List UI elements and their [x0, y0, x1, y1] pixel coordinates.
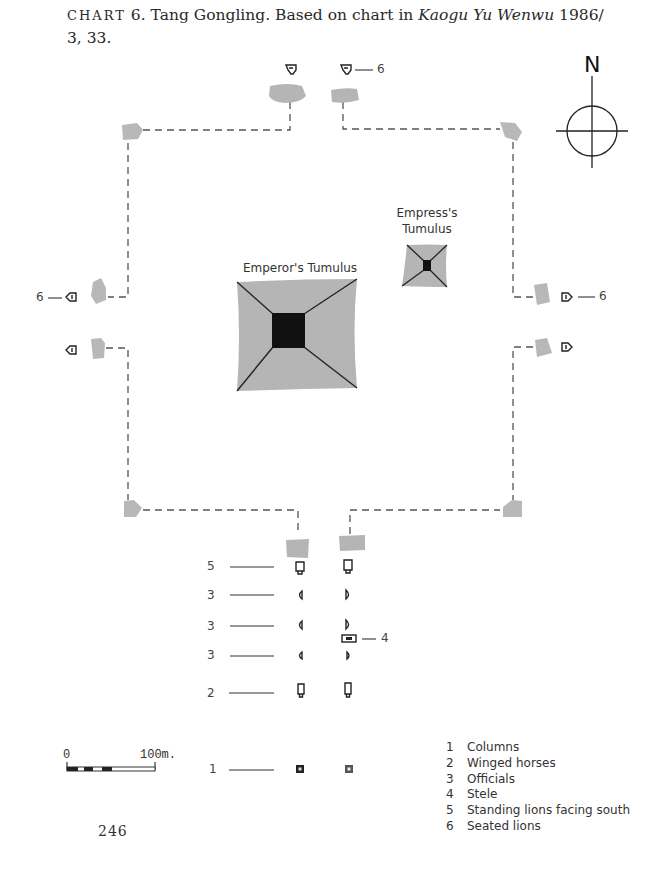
emperor-tumulus: [237, 279, 357, 391]
scale-start-label: 0: [63, 748, 70, 762]
callout-east-lion: 6: [599, 289, 607, 303]
emperor-burial-chamber: [272, 313, 305, 348]
official-icon-e1: [346, 590, 349, 599]
winged-horse-icon-e: [345, 683, 351, 697]
legend-item: 5Standing lions facing south: [446, 803, 630, 819]
legend-item: 1Columns: [446, 740, 630, 756]
compass-rose: [556, 76, 628, 168]
standing-lion-icon-w: [296, 562, 304, 574]
empress-tumulus-label-line1: Empress's: [392, 206, 462, 220]
seated-lion-icon-west-n: [66, 293, 76, 301]
avenue-row-key: 1: [209, 762, 217, 776]
columns-pair: [296, 765, 353, 773]
winged-horse-icon-w: [298, 684, 304, 697]
seated-lion-icon-east-n: [562, 293, 572, 301]
avenue-row-leaders: [229, 567, 274, 770]
official-icon-w1: [300, 591, 303, 599]
compass-north-label: N: [584, 52, 600, 77]
avenue-row-key: 3: [207, 588, 215, 602]
legend-item: 3Officials: [446, 772, 630, 788]
east-gate-tower-south: [535, 338, 552, 357]
official-icon-w2: [300, 621, 303, 629]
official-icon-e3: [347, 652, 349, 659]
legend-item: 6Seated lions: [446, 819, 630, 835]
north-gate-tower-east: [331, 88, 359, 102]
official-icon-e2: [346, 620, 349, 629]
seated-lion-icon-west-s: [66, 346, 76, 354]
standing-lion-icon-e: [344, 560, 352, 573]
page-number: 246: [98, 823, 128, 839]
scale-bar: [67, 762, 155, 771]
emperor-tumulus-label: Emperor's Tumulus: [240, 261, 360, 275]
east-gate-tower-north: [534, 283, 550, 305]
empress-tumulus-label-line2: Tumulus: [392, 222, 462, 236]
legend-item: 4Stele: [446, 787, 630, 803]
south-gate-tower-west: [286, 539, 309, 558]
avenue-row-key: 5: [207, 559, 215, 573]
official-icon-w3: [300, 652, 303, 659]
avenue-row-key: 2: [207, 686, 215, 700]
seated-lion-icon-north-e: [341, 65, 351, 74]
corner-tower-nw: [122, 123, 143, 140]
callout-north-lion: 6: [377, 62, 385, 76]
seated-lion-icon-north-w: [286, 65, 296, 74]
legend-item: 2Winged horses: [446, 756, 630, 772]
callout-stele: 4: [381, 631, 389, 645]
callout-west-lion: 6: [36, 290, 44, 304]
south-gate-tower-east: [339, 535, 365, 551]
north-gate-tower-west: [269, 84, 306, 103]
empress-burial-chamber: [423, 260, 431, 271]
corner-tower-sw: [124, 500, 142, 517]
seated-lion-icon-east-s: [562, 343, 572, 351]
avenue-row-key: 3: [207, 619, 215, 633]
avenue-row-key: 3: [207, 648, 215, 662]
empress-tumulus: [402, 245, 447, 288]
corner-tower-ne: [500, 122, 522, 141]
corner-tower-se: [503, 500, 522, 517]
legend: 1Columns 2Winged horses 3Officials 4Stel…: [446, 740, 630, 835]
scale-end-label: 100m.: [140, 748, 176, 762]
west-gate-tower-north: [91, 278, 106, 304]
west-gate-tower-south: [91, 338, 105, 359]
